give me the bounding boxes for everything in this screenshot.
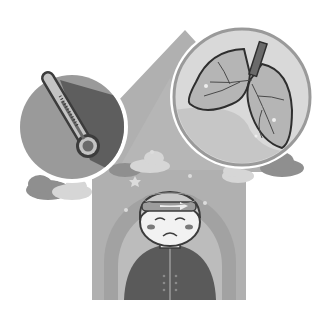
sick-child-illustration — [0, 0, 330, 314]
